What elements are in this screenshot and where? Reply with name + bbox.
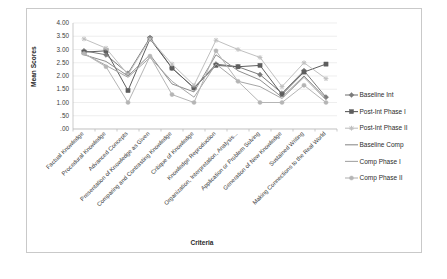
y-tick-label: 2.00 [57, 72, 70, 79]
chart-legend: Baseline IntPost-Int Phase IPost-Int Pha… [345, 91, 408, 182]
legend-marker [349, 110, 353, 114]
data-point [170, 92, 174, 96]
data-point [82, 37, 87, 42]
data-point [236, 47, 241, 52]
x-axis-title: Criteria [190, 239, 213, 246]
data-point [324, 62, 328, 66]
data-point [214, 38, 219, 43]
data-point [126, 100, 130, 104]
data-point [280, 100, 284, 104]
y-axis-tick-labels: 4.003.503.002.502.001.501.00.50.00 [57, 19, 70, 132]
x-axis-category-labels: Factual KnowledgeProcedural KnowledgeAdv… [45, 130, 327, 207]
data-point [148, 37, 153, 42]
data-point [324, 76, 329, 81]
x-category-label: Critique of Knowledge [150, 130, 196, 176]
data-point [302, 60, 307, 65]
y-tick-label: 1.00 [57, 99, 70, 106]
legend-marker [349, 176, 353, 180]
y-tick-label: 3.00 [57, 46, 70, 53]
legend-item-1[interactable]: Baseline Int [345, 91, 394, 98]
chart-container: 4.003.503.002.502.001.501.00.50.00 Factu… [26, 8, 422, 253]
data-point [258, 55, 263, 60]
legend-marker [349, 92, 354, 97]
data-point [280, 84, 285, 89]
legend-item-3[interactable]: Post-Int Phase II [345, 124, 408, 131]
data-point [236, 65, 240, 69]
legend-label: Baseline Int [360, 91, 394, 98]
legend-label: Post-Int Phase II [360, 124, 408, 131]
y-tick-label: .00 [60, 125, 69, 132]
x-category-label: Procedural Knowledge [61, 130, 108, 177]
data-point [192, 100, 196, 104]
data-point [148, 54, 152, 58]
legend-label: Comp Phase I [360, 158, 401, 166]
x-category-label: Factual Knowledge [45, 130, 85, 170]
legend-item-4[interactable]: Baseline Comp [345, 141, 404, 149]
legend-label: Post-Int Phase I [360, 108, 406, 115]
legend-label: Comp Phase II [360, 174, 403, 182]
data-point [302, 70, 306, 74]
legend-item-5[interactable]: Comp Phase I [345, 158, 401, 166]
data-point [258, 100, 262, 104]
data-point [126, 88, 130, 92]
legend-label: Baseline Comp [360, 141, 404, 149]
data-point [104, 46, 109, 51]
y-tick-label: .50 [60, 112, 69, 119]
y-tick-label: 4.00 [57, 19, 70, 26]
data-point [324, 100, 328, 104]
y-axis-title: Mean Scores [30, 46, 37, 87]
data-point [170, 66, 174, 70]
series-1 [81, 35, 328, 100]
data-point [104, 65, 108, 69]
y-tick-label: 3.50 [57, 32, 70, 39]
data-point [302, 83, 306, 87]
data-point [214, 49, 218, 53]
data-point [170, 62, 175, 67]
legend-marker [349, 126, 354, 131]
x-category-label: Advanced Concepts [87, 130, 129, 172]
data-point [192, 83, 197, 88]
y-tick-label: 1.50 [57, 85, 70, 92]
line-chart: 4.003.503.002.502.001.501.00.50.00 Factu… [27, 9, 421, 252]
legend-item-2[interactable]: Post-Int Phase I [345, 108, 406, 115]
data-series-layer [81, 35, 328, 105]
data-point [236, 79, 240, 83]
y-tick-label: 2.50 [57, 59, 70, 66]
data-point [82, 51, 86, 55]
legend-item-6[interactable]: Comp Phase II [345, 174, 403, 182]
data-point [258, 63, 262, 67]
